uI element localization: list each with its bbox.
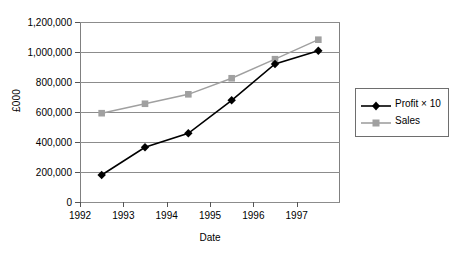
data-point-diamond (314, 47, 322, 55)
data-point-square (142, 100, 149, 107)
legend-item-profit: Profit × 10 (361, 95, 443, 112)
y-tick-label: 800,000 (36, 77, 72, 88)
data-point-square (228, 75, 235, 82)
y-tick-label: 600,000 (36, 107, 72, 118)
plot-area: 0200,000400,000600,000800,0001,000,0001,… (80, 22, 340, 202)
data-point-square (315, 36, 322, 43)
legend-marker-square-icon (361, 115, 391, 127)
series-line (102, 40, 319, 114)
x-tick-label: 1996 (242, 210, 264, 221)
data-point-diamond (141, 143, 149, 151)
x-tick-label: 1992 (69, 210, 91, 221)
legend-label-profit: Profit × 10 (395, 98, 441, 109)
x-tick-label: 1997 (286, 210, 308, 221)
legend-marker-diamond-icon (361, 98, 391, 110)
y-tick-label: 0 (66, 197, 72, 208)
y-tick-label: 1,000,000 (28, 47, 73, 58)
chart-legend: Profit × 10 Sales (355, 88, 449, 137)
legend-label-sales: Sales (395, 115, 420, 126)
x-tick-label: 1994 (156, 210, 178, 221)
chart-figure: £000 Date 0200,000400,000600,000800,0001… (0, 0, 456, 257)
series-plot (80, 22, 340, 203)
data-point-diamond (97, 171, 105, 179)
x-axis-title: Date (80, 232, 340, 243)
series-line (102, 51, 319, 175)
y-tick-label: 1,200,000 (28, 17, 73, 28)
y-axis-title: £000 (11, 71, 22, 131)
y-tick-label: 400,000 (36, 137, 72, 148)
x-tick-label: 1995 (199, 210, 221, 221)
data-point-square (185, 91, 192, 98)
x-tick-label: 1993 (112, 210, 134, 221)
data-point-square (98, 110, 105, 117)
y-tick-label: 200,000 (36, 167, 72, 178)
legend-item-sales: Sales (361, 112, 443, 129)
